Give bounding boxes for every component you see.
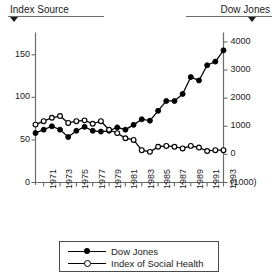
x-tick-1973: 1973 <box>64 168 74 188</box>
data-point <box>33 131 38 136</box>
chart-figure: Index Source Dow Jones 050100150 (1000)0… <box>0 0 278 278</box>
data-point <box>115 131 120 136</box>
x-tick-1993: 1993 <box>228 168 238 188</box>
axis-layer <box>32 33 228 187</box>
y-tick-left-50: 50 <box>2 134 30 144</box>
data-point <box>196 78 201 83</box>
y-tick-right-4000: 4000 <box>231 36 273 46</box>
data-point <box>164 143 169 148</box>
data-point <box>90 121 95 126</box>
data-point <box>82 124 87 129</box>
legend-item-dow-jones: Dow Jones <box>60 245 218 257</box>
data-point <box>180 146 185 151</box>
data-point <box>98 129 103 134</box>
legend-label-index-of-social-health: Index of Social Health <box>106 258 203 269</box>
series-line-0 <box>36 50 224 137</box>
x-tick-1971: 1971 <box>48 168 58 188</box>
legend-item-index-of-social-health: Index of Social Health <box>60 257 218 269</box>
data-point <box>139 148 144 153</box>
data-point <box>205 63 210 68</box>
y-tick-left-0: 0 <box>2 177 30 187</box>
data-point <box>123 127 128 132</box>
legend-marker-open-circle <box>68 257 106 269</box>
data-point <box>156 144 161 149</box>
data-point <box>156 108 161 113</box>
data-point <box>188 75 193 80</box>
x-tick-1981: 1981 <box>129 168 139 188</box>
x-tick-1991: 1991 <box>211 168 221 188</box>
series-line-1 <box>36 116 224 152</box>
chart-legend: Dow Jones Index of Social Health <box>59 241 219 272</box>
y-tick-right-3000: 3000 <box>231 64 273 74</box>
data-point <box>139 117 144 122</box>
x-tick-1977: 1977 <box>97 168 107 188</box>
data-point <box>213 148 218 153</box>
data-point <box>49 124 54 129</box>
data-point <box>131 138 136 143</box>
x-tick-1983: 1983 <box>146 168 156 188</box>
data-point <box>147 118 152 123</box>
data-point <box>74 128 79 133</box>
data-point <box>49 115 54 120</box>
data-point <box>115 125 120 130</box>
data-point <box>197 145 202 150</box>
data-point <box>164 98 169 103</box>
data-point <box>205 149 210 154</box>
series-layer <box>33 48 226 154</box>
x-tick-1985: 1985 <box>162 168 172 188</box>
data-point <box>33 122 38 127</box>
data-point <box>66 134 71 139</box>
data-point <box>98 119 103 124</box>
x-tick-1989: 1989 <box>195 168 205 188</box>
x-tick-1979: 1979 <box>113 168 123 188</box>
y-tick-left-100: 100 <box>2 91 30 101</box>
legend-label-dow-jones: Dow Jones <box>106 246 158 257</box>
data-point <box>41 127 46 132</box>
data-point <box>221 148 226 153</box>
data-point <box>213 59 218 64</box>
data-point <box>172 98 177 103</box>
data-point <box>148 149 153 154</box>
x-tick-1987: 1987 <box>178 168 188 188</box>
y-tick-right-2000: 2000 <box>231 92 273 102</box>
data-point <box>90 128 95 133</box>
data-point <box>188 143 193 148</box>
y-tick-right-1000: 1000 <box>231 120 273 130</box>
data-point <box>107 127 112 132</box>
data-point <box>66 121 71 126</box>
data-point <box>131 122 136 127</box>
data-point <box>41 119 46 124</box>
data-point <box>172 144 177 149</box>
y-tick-left-150: 150 <box>2 49 30 59</box>
data-point <box>58 127 63 132</box>
data-point <box>123 136 128 141</box>
data-point <box>82 118 87 123</box>
data-point <box>221 48 226 53</box>
y-tick-right-0: 0 <box>231 148 273 158</box>
data-point <box>74 119 79 124</box>
data-point <box>58 114 63 119</box>
data-point <box>180 91 185 96</box>
x-tick-1975: 1975 <box>80 168 90 188</box>
legend-marker-filled-circle <box>68 245 106 257</box>
